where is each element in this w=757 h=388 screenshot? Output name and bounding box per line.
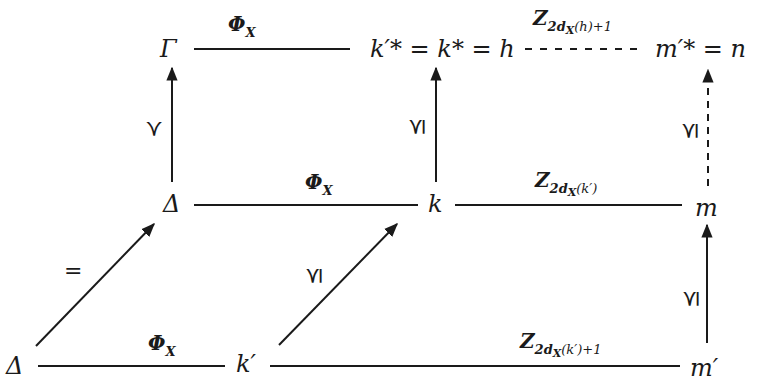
label-phi-x-middle: ΦX (305, 172, 333, 197)
label-prec-left-vertical: ≺ (145, 118, 163, 140)
label-z-h-top: Z2dX(h)+1 (533, 8, 612, 36)
label-preceq-right-bottom-vertical: ⪯ (682, 288, 700, 310)
node-mprime: m′ (690, 356, 718, 380)
edge-delta-bottom-to-delta (36, 224, 154, 346)
edge-kprime-to-k (279, 224, 397, 345)
node-delta-bottom: Δ (6, 354, 23, 378)
label-preceq-middle-vertical: ⪯ (408, 116, 426, 138)
node-kprime: k′ (236, 352, 256, 376)
node-m: m (695, 196, 718, 220)
node-gamma: Γ (160, 37, 177, 61)
label-phi-x-bottom: ΦX (148, 333, 176, 358)
node-delta-middle: Δ (163, 192, 180, 216)
node-mstar-n: m′* = n (655, 37, 746, 61)
label-preceq-diagonal: ⪯ (305, 265, 323, 287)
label-z-kprime-plus-one-bottom: Z2dX(k′)+1 (520, 331, 601, 359)
label-preceq-right-top-vertical: ⪯ (681, 120, 699, 142)
node-kstar-h: k′* = k* = h (370, 37, 515, 61)
node-k: k (428, 192, 443, 216)
commutative-diagram: Γ k′* = k* = h m′* = n Δ k m Δ k′ m′ ΦX … (0, 0, 757, 388)
label-equals-diagonal: = (64, 260, 82, 282)
label-z-kprime-middle: Z2dX(k′) (535, 170, 597, 198)
label-phi-x-top: ΦX (228, 14, 256, 39)
